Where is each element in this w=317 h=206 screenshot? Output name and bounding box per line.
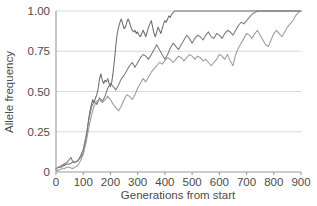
x-tick-label: 300 (128, 176, 147, 188)
y-tick-label: 0.75 (28, 45, 50, 57)
y-tick-label: 1.00 (28, 5, 50, 17)
chart-svg: 010020030040050060070080090000.250.500.7… (0, 0, 317, 206)
y-tick-label: 0 (44, 166, 50, 178)
y-tick-label: 0.25 (28, 126, 50, 138)
axes (56, 11, 301, 175)
x-tick-label: 600 (210, 176, 229, 188)
x-tick-label: 200 (101, 176, 120, 188)
x-axis-title: Generations from start (121, 189, 236, 201)
x-tick-label: 700 (237, 176, 256, 188)
x-tick-label: 0 (53, 176, 59, 188)
y-tick-label: 0.50 (28, 86, 50, 98)
series-line-1 (56, 11, 301, 169)
x-tick-label: 900 (291, 176, 310, 188)
y-axis-title: Allele frequency (3, 51, 15, 133)
x-tick-label: 500 (183, 176, 202, 188)
gridlines (56, 11, 301, 132)
series-line-3 (56, 11, 301, 170)
x-tick-label: 400 (155, 176, 174, 188)
series-line-2 (56, 11, 301, 169)
tick-labels: 010020030040050060070080090000.250.500.7… (28, 5, 311, 188)
allele-frequency-chart: 010020030040050060070080090000.250.500.7… (0, 0, 317, 206)
plot-series (56, 11, 301, 170)
x-tick-label: 100 (74, 176, 93, 188)
x-tick-label: 800 (264, 176, 283, 188)
